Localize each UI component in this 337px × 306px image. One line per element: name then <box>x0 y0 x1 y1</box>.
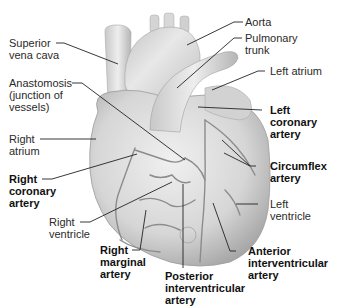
label-right-ventricle: Right ventricle <box>49 216 90 240</box>
label-anastomosis: Anastomosis (junction of vessels) <box>9 77 72 113</box>
label-right-marginal-artery: Right marginal artery <box>100 244 146 280</box>
label-left-ventricle: Left ventricle <box>270 198 311 222</box>
label-circumflex-artery: Circumflex artery <box>270 160 327 184</box>
label-right-coronary-artery: Right coronary artery <box>9 173 56 209</box>
label-right-atrium: Right atrium <box>9 133 40 157</box>
label-superior-vena-cava: Superior vena cava <box>9 37 59 61</box>
label-pulmonary-trunk: Pulmonary trunk <box>245 32 298 56</box>
label-anterior-interventricular-artery: Anterior interventricular artery <box>248 245 328 281</box>
label-left-coronary-artery: Left coronary artery <box>270 104 317 140</box>
heart-diagram: Superior vena cava Anastomosis (junction… <box>0 0 337 306</box>
label-posterior-interventricular-artery: Posterior interventricular artery <box>165 270 245 306</box>
label-aorta: Aorta <box>245 16 271 28</box>
label-left-atrium: Left atrium <box>270 65 322 77</box>
